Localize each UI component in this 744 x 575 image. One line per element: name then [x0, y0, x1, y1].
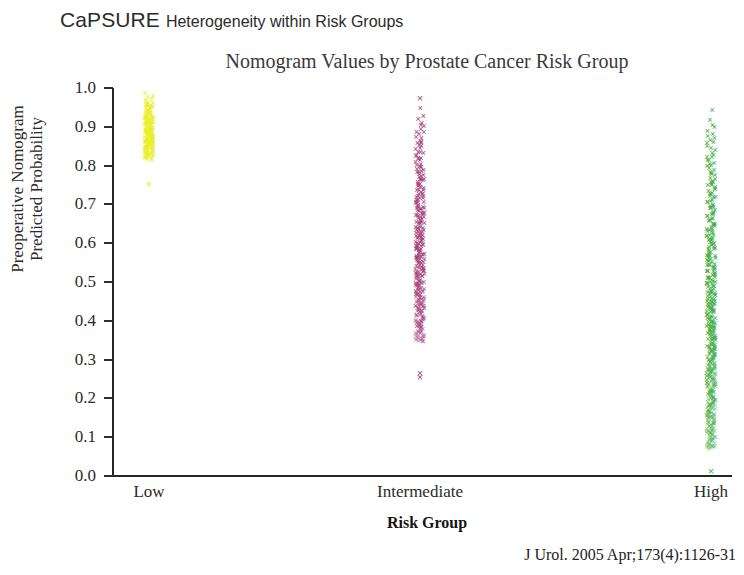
- data-point: ×: [417, 92, 423, 103]
- data-point: ×: [707, 362, 712, 371]
- data-point: ×: [420, 240, 425, 249]
- data-point: ×: [708, 322, 713, 331]
- data-point: ×: [704, 266, 709, 275]
- data-point: ×: [144, 149, 149, 158]
- data-point: ×: [416, 214, 421, 223]
- data-point: ×: [414, 255, 419, 264]
- data-point: ×: [706, 318, 711, 327]
- data-point: ×: [711, 243, 716, 252]
- data-point: ×: [706, 257, 711, 266]
- data-point: ×: [418, 187, 423, 196]
- data-point: ×: [145, 146, 150, 155]
- data-point: ×: [710, 208, 715, 217]
- data-point: ×: [713, 244, 718, 253]
- data-point: ×: [706, 164, 711, 173]
- data-point: ×: [709, 441, 714, 450]
- data-point: ×: [151, 118, 156, 127]
- data-point: ×: [710, 398, 715, 407]
- data-point: ×: [710, 354, 715, 363]
- data-point: ×: [704, 412, 709, 421]
- data-point: ×: [707, 362, 712, 371]
- data-point: ×: [414, 168, 419, 177]
- data-point: ×: [704, 225, 709, 234]
- data-point: ×: [415, 333, 420, 342]
- data-point: ×: [150, 131, 155, 140]
- data-point: ×: [712, 350, 717, 359]
- data-point: ×: [708, 284, 713, 293]
- data-point: ×: [144, 154, 149, 163]
- data-point: ×: [705, 295, 710, 304]
- data-point: ×: [706, 417, 711, 426]
- data-point: ×: [414, 298, 419, 307]
- data-point: ×: [707, 116, 712, 125]
- data-point: ×: [145, 142, 150, 151]
- data-point: ×: [706, 261, 711, 270]
- data-point: ×: [414, 291, 419, 300]
- data-point: ×: [709, 355, 714, 364]
- data-point: ×: [419, 205, 424, 214]
- data-point: ×: [706, 410, 711, 419]
- data-point: ×: [143, 125, 148, 134]
- data-point: ×: [416, 331, 421, 340]
- data-point: ×: [705, 283, 710, 292]
- data-point: ×: [711, 137, 716, 146]
- data-point: ×: [145, 141, 150, 150]
- data-point: ×: [144, 144, 149, 153]
- data-point: ×: [413, 310, 418, 319]
- data-point: ×: [416, 190, 421, 199]
- data-point: ×: [419, 334, 424, 343]
- data-point: ×: [150, 147, 155, 156]
- data-point: ×: [709, 384, 714, 393]
- data-point: ×: [416, 250, 421, 259]
- data-point: ×: [417, 173, 422, 182]
- data-point: ×: [705, 303, 710, 312]
- data-point: ×: [143, 96, 148, 105]
- data-point: ×: [150, 135, 155, 144]
- data-point: ×: [413, 286, 418, 295]
- data-point: ×: [420, 286, 425, 295]
- data-point: ×: [415, 211, 420, 220]
- data-point: ×: [415, 223, 420, 232]
- data-point: ×: [416, 167, 421, 176]
- data-point: ×: [414, 272, 419, 281]
- data-point: ×: [142, 114, 147, 123]
- data-point: ×: [143, 149, 148, 158]
- data-point: ×: [147, 127, 152, 136]
- data-point: ×: [415, 241, 420, 250]
- data-point: ×: [144, 143, 149, 152]
- data-point: ×: [418, 326, 423, 335]
- data-point: ×: [704, 197, 709, 206]
- data-point: ×: [418, 174, 423, 183]
- data-point: ×: [416, 301, 421, 310]
- data-point: ×: [151, 113, 156, 122]
- data-point: ×: [148, 109, 153, 118]
- data-point: ×: [712, 260, 717, 269]
- data-point: ×: [150, 123, 155, 132]
- data-point: ×: [704, 256, 709, 265]
- data-point: ×: [704, 322, 709, 331]
- data-point: ×: [418, 300, 423, 309]
- data-point: ×: [416, 321, 421, 330]
- data-point: ×: [422, 295, 427, 304]
- data-point: ×: [145, 102, 150, 111]
- data-point: ×: [418, 309, 423, 318]
- data-point: ×: [713, 254, 718, 263]
- data-point: ×: [710, 425, 715, 434]
- data-point: ×: [706, 388, 711, 397]
- data-point: ×: [712, 219, 717, 228]
- data-point: ×: [143, 112, 148, 121]
- data-point: ×: [705, 310, 710, 319]
- data-point: ×: [711, 397, 716, 406]
- data-point: ×: [708, 202, 713, 211]
- data-point: ×: [711, 285, 716, 294]
- data-point: ×: [150, 152, 155, 161]
- data-point: ×: [418, 204, 423, 213]
- data-point: ×: [711, 307, 716, 316]
- data-point: ×: [418, 121, 423, 130]
- data-point: ×: [414, 252, 419, 261]
- data-point: ×: [416, 336, 421, 345]
- data-point: ×: [145, 155, 150, 164]
- data-point: ×: [706, 236, 711, 245]
- data-point: ×: [710, 228, 715, 237]
- data-point: ×: [709, 180, 714, 189]
